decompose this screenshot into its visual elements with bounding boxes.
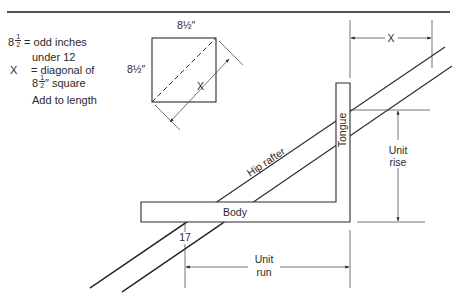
top-x-label: X [387,32,394,44]
unit-rise-dimension: Unit rise [350,110,430,222]
square-side-label: 8½″ [127,63,146,75]
hip-rafter-label: Hip rafter [245,144,288,178]
legend-text-1: = odd inches [24,36,87,48]
legend: 812 = odd inches under 12 X = diagonal o… [8,36,97,107]
tongue-label: Tongue [336,113,348,148]
unit-run-dimension: Unit run [186,230,350,288]
square-top-label: 8½″ [177,19,196,31]
unit-rise-label-line1: Unit [389,144,408,156]
unit-run-label-line2: run [256,266,271,278]
legend-text-5: Add to length [8,94,97,107]
body-label: Body [223,206,248,218]
fraction: 12 [39,74,45,89]
mark-17-label: 17 [179,231,191,243]
legend-symbol-x: X [8,64,28,77]
legend-text-4: ″ square [45,77,86,89]
top-x-dimension: X [350,20,432,78]
fraction: 12 [15,33,21,48]
square-diagonal [152,38,216,102]
inch-square: 8½″ 8½″ X [127,19,243,130]
legend-value-1: 8 [8,36,14,48]
framing-square: Body Tongue [141,83,350,222]
unit-run-label-line1: Unit [255,253,274,265]
legend-value-4: 8 [32,77,38,89]
legend-text-2: under 12 [8,51,97,64]
square-diagonal-label: X [197,80,204,92]
unit-rise-label-line2: rise [390,156,407,168]
